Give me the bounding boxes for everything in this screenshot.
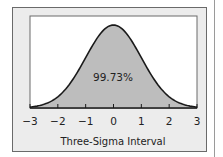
percentage-annotation: 99.73% <box>93 71 133 83</box>
x-axis-label: Three-Sigma Interval <box>59 136 165 147</box>
tick-label: 1 <box>138 115 145 127</box>
tick-label: 2 <box>166 115 173 127</box>
tick-label: 0 <box>110 115 117 127</box>
tick-label: 3 <box>194 115 201 127</box>
tick-label: −1 <box>78 115 93 127</box>
normal-distribution-chart: −3−2−10123 99.73% Three-Sigma Interval <box>0 0 223 157</box>
tick-label: −2 <box>50 115 65 127</box>
tick-label: −3 <box>22 115 37 127</box>
